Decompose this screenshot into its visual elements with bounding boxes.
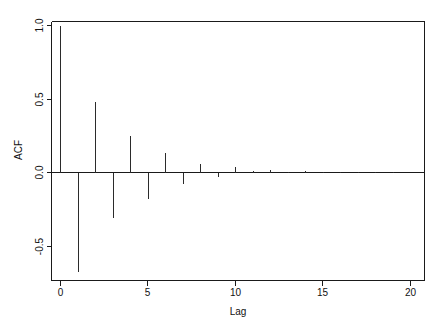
y-ticklabel-0: 1.0 (34, 18, 45, 32)
x-axis-title: Lag (230, 306, 247, 317)
x-ticklabel-3: 15 (317, 287, 329, 298)
x-ticklabel-4: 20 (405, 287, 417, 298)
acf-plot-figure: 1.0 0.5 0.0 -0.5 ACF 0 5 10 15 20 Lag (0, 0, 439, 323)
acf-plot-canvas: 1.0 0.5 0.0 -0.5 ACF 0 5 10 15 20 Lag (0, 0, 439, 323)
acf-spike-group (61, 26, 411, 273)
x-ticklabel-2: 10 (230, 287, 242, 298)
y-ticklabel-1: 0.5 (34, 92, 45, 106)
y-ticklabel-3: -0.5 (34, 237, 45, 255)
x-axis-tick-labels: 0 5 10 15 20 (58, 287, 417, 298)
y-ticklabel-2: 0.0 (34, 165, 45, 179)
plot-border (52, 22, 425, 281)
plot-frame (52, 22, 425, 281)
y-axis-title: ACF (13, 140, 24, 160)
x-ticklabel-1: 5 (145, 287, 151, 298)
x-axis-ticks (61, 281, 411, 286)
y-axis-ticks (47, 26, 52, 247)
y-axis-tick-labels: 1.0 0.5 0.0 -0.5 (34, 18, 45, 255)
x-ticklabel-0: 0 (58, 287, 64, 298)
